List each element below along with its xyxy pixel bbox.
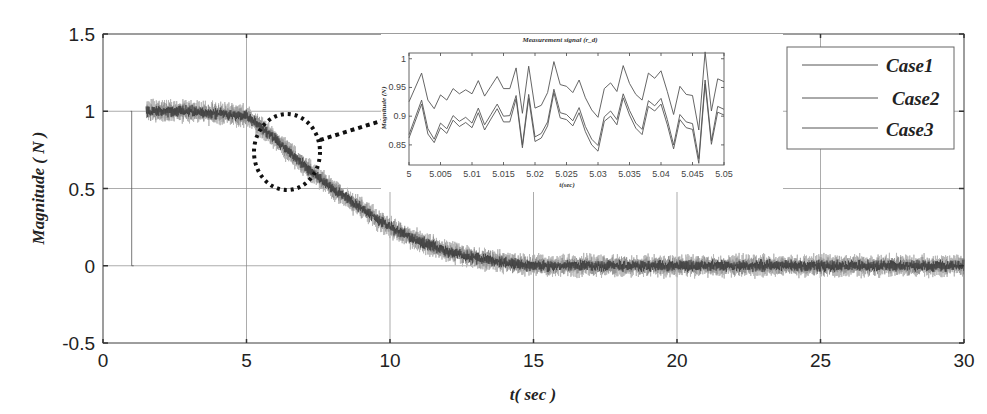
x-tick-label: 20 bbox=[666, 350, 687, 371]
inset-x-tick-label: 5.05 bbox=[715, 169, 733, 179]
x-tick-label: 10 bbox=[379, 350, 400, 371]
inset-x-tick-label: 5 bbox=[406, 169, 411, 179]
x-tick-label: 30 bbox=[953, 350, 974, 371]
y-tick-label: -0.5 bbox=[62, 333, 95, 354]
inset-x-tick-label: 5.045 bbox=[681, 169, 704, 179]
inset-y-tick-label: 0.95 bbox=[388, 82, 406, 92]
inset-x-tick-label: 5.04 bbox=[652, 169, 670, 179]
legend-label: Case2 bbox=[892, 88, 940, 109]
inset-x-tick-label: 5.015 bbox=[492, 169, 515, 179]
chart-figure: 051015202530 -0.500.511.5 t( sec ) Magni… bbox=[0, 0, 987, 414]
inset-x-tick-label: 5.005 bbox=[429, 169, 452, 179]
inset-y-tick-label: 0.85 bbox=[388, 140, 406, 150]
x-tick-label: 5 bbox=[241, 350, 252, 371]
inset-x-tick-label: 5.02 bbox=[526, 169, 544, 179]
x-axis-tick-labels: 051015202530 bbox=[98, 350, 975, 371]
y-tick-label: 1.5 bbox=[69, 24, 95, 45]
dotted-arrow-line bbox=[320, 120, 384, 140]
inset-x-tick-label: 5.025 bbox=[555, 169, 578, 179]
y-axis-title: Magnitude ( N ) bbox=[29, 132, 48, 246]
y-axis-tick-labels: -0.500.511.5 bbox=[62, 24, 95, 354]
x-tick-label: 0 bbox=[98, 350, 109, 371]
inset-y-axis-title: Magnitude (N) bbox=[380, 87, 388, 131]
inset-zoom-plot: Measurement signal (r_d) 55.0055.015.015… bbox=[380, 34, 783, 192]
y-tick-label: 0 bbox=[84, 256, 95, 277]
inset-x-tick-label: 5.035 bbox=[618, 169, 641, 179]
inset-x-tick-label: 5.03 bbox=[589, 169, 607, 179]
x-axis-title: t( sec ) bbox=[510, 385, 556, 404]
legend-label: Case1 bbox=[886, 55, 934, 76]
x-tick-label: 15 bbox=[523, 350, 544, 371]
x-tick-label: 25 bbox=[810, 350, 831, 371]
legend-label: Case3 bbox=[886, 119, 934, 140]
legend: Case1 Case2 Case3 bbox=[787, 47, 954, 149]
inset-x-axis-title: t(sec) bbox=[559, 181, 575, 189]
inset-y-tick-label: 0.9 bbox=[393, 111, 406, 121]
y-tick-label: 0.5 bbox=[69, 179, 95, 200]
inset-x-tick-label: 5.01 bbox=[463, 169, 481, 179]
inset-title: Measurement signal (r_d) bbox=[521, 36, 597, 44]
inset-y-tick-label: 1 bbox=[401, 54, 406, 64]
y-tick-label: 1 bbox=[84, 101, 95, 122]
